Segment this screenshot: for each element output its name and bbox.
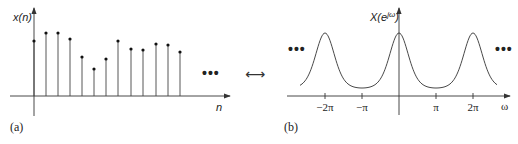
caption-b: (b) [284,120,298,134]
stem-dot [129,47,132,50]
caption-a: (a) [10,120,23,134]
y-axis-label: X(ejω) [369,10,399,23]
panel-b: −2π−ππ2π X(ejω) ω ••• ••• (b) [284,8,513,134]
tick-label: 2π [467,101,479,113]
stem-dot [56,31,59,34]
stem-dot [166,43,169,46]
stem-dot [68,37,71,40]
tick-label: π [433,101,439,113]
y-axis-label: x(n) [12,11,32,23]
stem-dot [141,48,144,51]
tick-label: −π [356,101,368,113]
ellipsis: ••• [202,65,220,81]
panel-a: x(n) n ••• (a) [10,8,230,134]
stem-dot [92,67,95,70]
stem-dot [154,42,157,45]
figure: x(n) n ••• (a) ⟷ −2π−ππ2π X(ejω) ω ••• •… [0,0,518,144]
omega-label: ω [501,100,508,112]
stem-dot [104,57,107,60]
stem-dot [32,39,35,42]
stem-dot [178,50,181,53]
stem-series [32,31,181,96]
stem-dot [116,39,119,42]
x-axis-label: n [216,101,222,113]
ellipsis-right: ••• [495,41,513,57]
spectrum-curve [300,33,497,88]
stem-dot [80,55,83,58]
stem-dot [44,31,47,34]
transform-arrow: ⟷ [245,66,265,82]
ellipsis-left: ••• [288,41,306,57]
tick-label: −2π [316,101,334,113]
